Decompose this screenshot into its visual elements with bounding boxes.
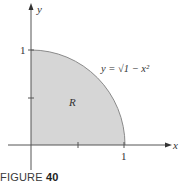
figure-canvas: y x 1 1 R y = √1 − x² bbox=[0, 0, 179, 187]
x-tick-label: 1 bbox=[121, 150, 127, 162]
figure-caption: FIGURE 40 bbox=[0, 171, 59, 183]
caption-label: FIGURE bbox=[0, 171, 43, 183]
region-label: R bbox=[68, 96, 76, 108]
y-axis-arrow-icon bbox=[29, 3, 34, 10]
curve-label: y = √1 − x² bbox=[100, 63, 150, 74]
caption-number: 40 bbox=[46, 171, 59, 183]
y-axis-label: y bbox=[36, 3, 42, 15]
y-tick-label: 1 bbox=[20, 44, 26, 56]
x-axis-arrow-icon bbox=[165, 143, 172, 148]
x-axis-label: x bbox=[172, 139, 178, 151]
